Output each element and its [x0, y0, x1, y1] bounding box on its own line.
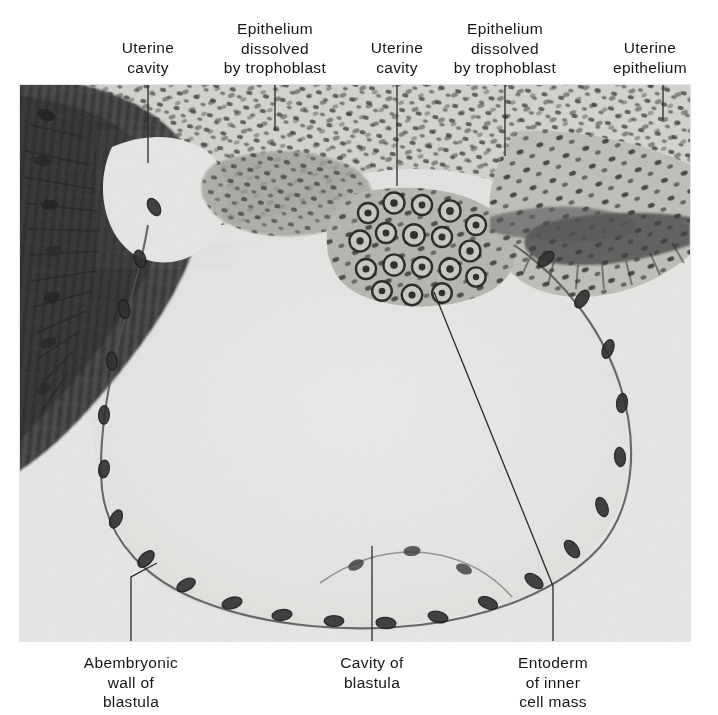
label-line: blastula: [21, 692, 241, 712]
label-abembryonic-wall: Abembryonicwall ofblastula: [21, 653, 241, 712]
label-entoderm-inner-cell-mass: Entodermof innercell mass: [443, 653, 663, 712]
label-line: of inner: [443, 673, 663, 693]
label-line: Abembryonic: [21, 653, 241, 673]
label-line: Epithelium: [165, 19, 385, 39]
micrograph-plate: [20, 85, 690, 641]
micrograph-image: [20, 85, 690, 641]
label-uterine-epithelium: Uterineepithelium: [540, 38, 718, 77]
label-line: Entoderm: [443, 653, 663, 673]
label-line: Epithelium: [395, 19, 615, 39]
label-line: epithelium: [540, 58, 718, 78]
figure-root: UterinecavityEpitheliumdissolvedby troph…: [0, 0, 718, 715]
label-line: wall of: [21, 673, 241, 693]
label-line: cell mass: [443, 692, 663, 712]
label-line: Uterine: [540, 38, 718, 58]
